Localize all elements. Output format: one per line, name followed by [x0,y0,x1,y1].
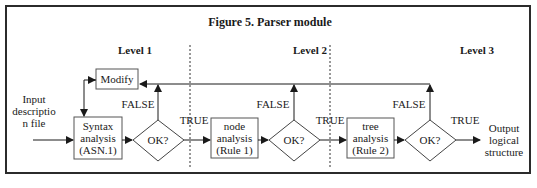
syntax-analysis-label: Syntax analysis (ASN.1) [74,120,122,156]
true-label-3: TRUE [447,114,483,126]
decision-3-label: OK? [410,134,450,146]
true-label-1: TRUE [176,114,212,126]
input-label: Input descriptio n file [6,93,62,129]
level-3-label: Level 3 [452,44,502,56]
tree-analysis-label: tree analysis (Rule 2) [347,120,394,156]
true-label-2: TRUE [312,114,348,126]
output-label: Output logical structure [480,122,528,158]
false-label-3: FALSE [389,98,429,110]
modify-label: Modify [96,73,138,85]
decision-2-label: OK? [274,134,314,146]
decision-1-label: OK? [138,134,178,146]
node-analysis-label: node analysis (Rule 1) [211,120,258,156]
modify-return-line [84,80,96,116]
false-label-1: FALSE [118,98,158,110]
level-1-label: Level 1 [110,44,160,56]
level-2-label: Level 2 [285,44,335,56]
figure-title: Figure 5. Parser module [200,16,340,28]
false-label-2: FALSE [253,98,293,110]
